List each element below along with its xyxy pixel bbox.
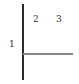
- region-label-3: 3: [56, 15, 62, 24]
- diagram-canvas: 1 2 3: [0, 0, 79, 84]
- region-label-2: 2: [33, 15, 39, 24]
- region-label-1: 1: [9, 40, 15, 49]
- horizontal-divider-line: [23, 53, 73, 55]
- vertical-divider-line: [22, 4, 24, 80]
